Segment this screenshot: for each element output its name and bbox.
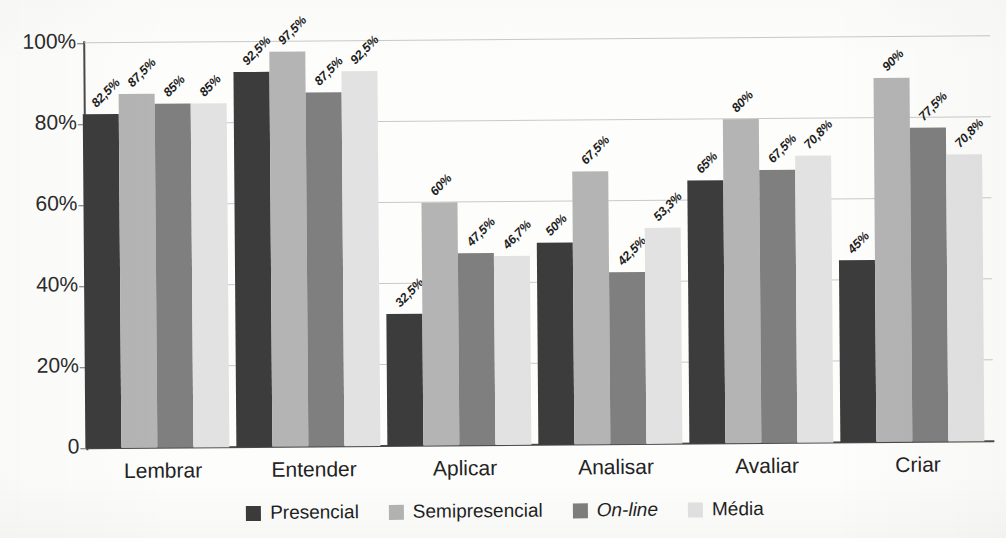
bar-semipresencial-entender: 97,5% xyxy=(269,52,308,447)
bar-value-label: 80% xyxy=(728,88,755,115)
bar-presencial-avaliar: 65% xyxy=(687,180,725,444)
y-axis-tick-label: 40% xyxy=(0,272,78,297)
bar-presencial-entender: 92,5% xyxy=(233,72,272,447)
y-axis-tick-label: 0 xyxy=(1,434,79,459)
bar-chart: 020%40%60%80%100% 82,5%87,5%85%85%92,5%9… xyxy=(0,0,1006,538)
bar-value-label: 85% xyxy=(196,72,223,99)
x-axis-label-aplicar: Aplicar xyxy=(389,456,540,481)
bar-online-aplicar: 47,5% xyxy=(457,253,495,446)
bar-value-label: 65% xyxy=(693,149,720,176)
bar-online-analisar: 42,5% xyxy=(609,272,646,444)
bar-semipresencial-analisar: 67,5% xyxy=(572,171,610,445)
bar-group: 65%80%67,5%70,8% xyxy=(686,37,833,443)
y-axis-tick-label: 100% xyxy=(0,29,76,54)
x-axis-category-labels: LembrarEntenderAplicarAnalisarAvaliarCri… xyxy=(0,0,1004,4)
bar-group: 92,5%97,5%87,5%92,5% xyxy=(233,41,380,447)
bar-value-label: 92,5% xyxy=(347,33,381,67)
bar-value-label: 53,3% xyxy=(650,190,684,224)
bar-online-criar: 77,5% xyxy=(909,128,947,442)
bar-mdia-avaliar: 70,8% xyxy=(795,156,833,443)
bar-value-label: 77,5% xyxy=(915,89,949,123)
bar-groups: 82,5%87,5%85%85%92,5%97,5%87,5%92,5%32,5… xyxy=(84,36,990,43)
bar-presencial-criar: 45% xyxy=(838,260,875,443)
chart-legend: PresencialSemipresencialOn-lineMédia xyxy=(2,496,1006,526)
bar-value-label: 70,8% xyxy=(801,117,835,151)
legend-label: Média xyxy=(712,498,764,520)
bar-value-label: 46,7% xyxy=(499,217,533,251)
y-axis-tick-label: 60% xyxy=(0,191,78,216)
bar-mdia-entender: 92,5% xyxy=(341,71,380,446)
bar-value-label: 97,5% xyxy=(275,13,309,47)
bar-semipresencial-lembrar: 87,5% xyxy=(118,93,157,448)
legend-swatch-icon xyxy=(573,503,588,518)
bar-mdia-analisar: 53,3% xyxy=(644,228,682,444)
legend-item-presencial[interactable]: Presencial xyxy=(246,501,359,524)
bar-online-avaliar: 67,5% xyxy=(759,169,797,443)
legend-swatch-icon xyxy=(389,504,404,519)
bar-value-label: 90% xyxy=(879,46,906,73)
bar-group: 45%90%77,5%70,8% xyxy=(837,36,984,442)
bar-presencial-lembrar: 82,5% xyxy=(82,114,121,448)
x-axis-label-analisar: Analisar xyxy=(540,455,691,480)
bar-value-label: 85% xyxy=(160,72,187,99)
legend-label: Semipresencial xyxy=(413,500,543,523)
bar-value-label: 87,5% xyxy=(124,55,158,89)
legend-item-mdia[interactable]: Média xyxy=(688,498,764,521)
x-axis-label-criar: Criar xyxy=(842,452,993,477)
bar-semipresencial-criar: 90% xyxy=(873,77,912,442)
bar-mdia-criar: 70,8% xyxy=(946,155,984,442)
bar-group: 32,5%60%47,5%46,7% xyxy=(384,40,531,446)
bar-presencial-analisar: 50% xyxy=(536,242,574,445)
legend-label: Presencial xyxy=(270,501,359,524)
legend-label: On-line xyxy=(597,499,658,521)
bar-value-label: 45% xyxy=(844,229,871,256)
bar-value-label: 60% xyxy=(427,171,454,198)
y-axis-tick-label: 80% xyxy=(0,110,77,135)
x-axis-label-entender: Entender xyxy=(238,457,389,482)
bar-presencial-aplicar: 32,5% xyxy=(386,314,423,446)
y-axis: 020%40%60%80%100% xyxy=(0,0,1004,4)
legend-item-semipresencial[interactable]: Semipresencial xyxy=(389,500,543,523)
bar-semipresencial-avaliar: 80% xyxy=(722,119,761,443)
bar-online-entender: 87,5% xyxy=(305,92,344,447)
bar-value-label: 70,8% xyxy=(952,116,986,150)
y-axis-tick-label: 20% xyxy=(1,353,79,378)
x-axis-label-avaliar: Avaliar xyxy=(691,453,842,478)
legend-swatch-icon xyxy=(688,502,703,517)
bar-online-lembrar: 85% xyxy=(154,103,193,448)
plot-area: 82,5%87,5%85%85%92,5%97,5%87,5%92,5%32,5… xyxy=(84,36,993,448)
legend-swatch-icon xyxy=(246,505,261,520)
bar-value-label: 50% xyxy=(542,211,569,238)
bar-mdia-lembrar: 85% xyxy=(190,103,229,448)
bar-group: 82,5%87,5%85%85% xyxy=(82,42,229,448)
bar-value-label: 47,5% xyxy=(463,214,497,248)
legend-item-online[interactable]: On-line xyxy=(573,499,658,522)
x-axis-label-lembrar: Lembrar xyxy=(87,458,238,483)
bar-group: 50%67,5%42,5%53,3% xyxy=(535,39,682,445)
bar-semipresencial-aplicar: 60% xyxy=(421,202,459,445)
bar-value-label: 67,5% xyxy=(578,133,612,167)
bar-mdia-aplicar: 46,7% xyxy=(493,256,530,445)
